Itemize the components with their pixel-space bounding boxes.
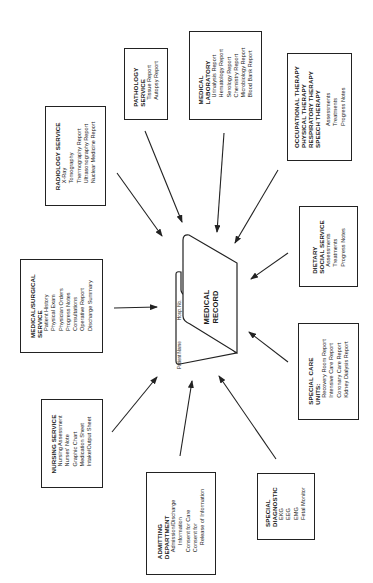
arrow-medsurg xyxy=(114,307,157,308)
dietary-social-service-box: DIETARY SOCIAL SERVICE Assessments Treat… xyxy=(299,206,358,287)
list-item: Fetal Monitor xyxy=(300,487,307,527)
list-item: Serology Report xyxy=(225,47,232,104)
arrow-specialcare xyxy=(249,332,288,362)
list-item: Hematology Report xyxy=(218,47,225,104)
list-item: Consent for Care xyxy=(184,488,191,558)
box-title: DEPARTMENT xyxy=(163,488,170,558)
list-item: Treatments xyxy=(332,220,339,273)
list-item: Assessments xyxy=(325,66,332,148)
list-item: Coronary Care Report xyxy=(336,339,343,404)
list-item: Consultations xyxy=(72,274,79,338)
special-care-units-box: SPECIAL CARE UNITS: Recovery Room Report… xyxy=(298,323,359,420)
box-title: SPEECH THERAPY xyxy=(314,66,321,148)
list-item: Kidney Dialysis Report xyxy=(343,339,350,404)
list-item: Microbiology Report xyxy=(240,47,247,104)
list-item: Chemistry Report xyxy=(233,47,240,104)
box-title: MEDICAL/SURGICAL xyxy=(29,274,36,338)
arrow-dietary xyxy=(251,253,288,279)
box-title: SERVICE xyxy=(139,61,146,107)
list-item: Blood Bank Report xyxy=(247,47,254,104)
list-item: Progress Notes xyxy=(339,66,346,148)
list-item: Information xyxy=(177,488,184,558)
arrow-therapy xyxy=(235,170,278,243)
special-diagnostic-box: SPECIAL DIAGNOSTIC EKG EEG EMG Fetal Mon… xyxy=(257,473,315,540)
list-item: Tissue Report xyxy=(146,61,153,107)
box-title: MEDICAL xyxy=(197,47,204,104)
list-item: EEG xyxy=(286,487,293,527)
list-item: EMG xyxy=(293,487,300,527)
list-item: Autopsy Report xyxy=(153,61,160,107)
list-item: Release of Information xyxy=(199,488,206,558)
list-item: Intake/Output Sheet xyxy=(86,414,93,473)
admitting-department-box: ADMITTING DEPARTMENT Admission/Discharge… xyxy=(146,472,216,575)
list-item: Urinalysis Report xyxy=(211,47,218,104)
list-item: Thermography Report xyxy=(75,122,82,191)
list-item: X-Ray xyxy=(61,122,68,191)
medical-laboratory-box: MEDICAL LABORATORY Urinalysis Report Hem… xyxy=(189,31,262,120)
list-item: Discharge Summary xyxy=(87,274,94,338)
box-title: SOCIAL SERVICE xyxy=(318,220,325,273)
pathology-service-box: PATHOLOGY SERVICE Tissue Report Autopsy … xyxy=(124,48,168,120)
box-title: DIETARY xyxy=(311,220,318,273)
list-item: Intensive Care Report xyxy=(328,339,335,404)
list-item: EKG xyxy=(278,487,285,527)
list-item: Physician Orders xyxy=(58,274,65,338)
list-item: Physical Exam xyxy=(50,274,57,338)
box-title: DIAGNOSTIC xyxy=(271,487,278,527)
box-title: SPECIAL CARE xyxy=(307,339,314,404)
patient-name-label: Patient Name xyxy=(177,325,185,369)
box-title: NURSING SERVICE xyxy=(50,414,57,473)
box-title: SERVICE xyxy=(36,274,43,338)
box-title: RADIOLOGY SERVICE xyxy=(54,122,61,191)
box-title: ADMITTING xyxy=(156,488,163,558)
box-title: UNITS: xyxy=(314,339,321,404)
nursing-service-box: NURSING SERVICE Nursing Assessment Nurse… xyxy=(41,399,103,488)
list-item: Progress Notes xyxy=(339,220,346,273)
list-item: Nursing Assessment xyxy=(57,414,64,473)
arrow-laboratory xyxy=(217,133,224,232)
list-item: Admission/Discharge xyxy=(170,488,177,558)
arrow-pathology xyxy=(145,131,182,222)
list-item: Patient History xyxy=(43,274,50,338)
list-item: Assessments xyxy=(325,220,332,273)
box-title: PATHOLOGY xyxy=(132,61,139,107)
arrow-radiology xyxy=(117,173,162,236)
list-item: Graphic Chart xyxy=(72,414,79,473)
list-item: Nuclear Medicine Report xyxy=(90,122,97,191)
hosp-no-label: Hosp. No. xyxy=(177,292,185,320)
box-title: LABORATORY xyxy=(204,47,211,104)
therapy-services-box: OCCUPATIONAL THERAPY PHYSICAL THERAPY RE… xyxy=(287,53,352,161)
box-title: SPECIAL xyxy=(264,487,271,527)
box-title: OCCUPATIONAL THERAPY xyxy=(293,66,300,148)
box-title: RESPIRATORY THERAPY xyxy=(307,66,314,148)
medical-record-title: MEDICAL RECORD xyxy=(202,277,224,337)
list-item: Tomography xyxy=(68,122,75,191)
medical-surgical-service-box: MEDICAL/SURGICAL SERVICE Patient History… xyxy=(20,259,103,353)
box-title: PHYSICAL THERAPY xyxy=(300,66,307,148)
list-item: Operative Report xyxy=(79,274,86,338)
arrow-diagnostic xyxy=(219,376,276,459)
list-item: Consent for xyxy=(192,488,199,558)
list-item: Progress Notes xyxy=(65,274,72,338)
list-item: Ultrasonography Report xyxy=(83,122,90,191)
list-item: Nurses' Note xyxy=(65,414,72,473)
list-item: Medication Sheet xyxy=(79,414,86,473)
radiology-service-box: RADIOLOGY SERVICE X-Ray Tomography Therm… xyxy=(45,106,106,206)
arrow-admitting xyxy=(180,381,192,456)
list-item: Treatments xyxy=(332,66,339,148)
arrow-nursing xyxy=(112,377,157,432)
list-item: Recovery Room Report xyxy=(321,339,328,404)
